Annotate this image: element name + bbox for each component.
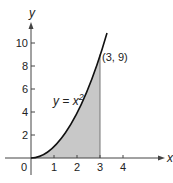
x-axis-arrow-icon	[158, 156, 165, 161]
x-tick-label: 3	[97, 161, 103, 173]
parabola-area-chart: 0 1 2 3 4 2 4 6 8 10 y x (3, 9) y = x2	[0, 0, 173, 183]
y-tick-label: 2	[22, 129, 28, 141]
y-axis-label: y	[28, 6, 36, 20]
equation-base: y = x	[52, 94, 80, 108]
chart-container: 0 1 2 3 4 2 4 6 8 10 y x (3, 9) y = x2	[0, 0, 173, 183]
x-tick-label: 2	[74, 161, 80, 173]
equation-exponent: 2	[78, 92, 84, 102]
y-tick-label: 10	[16, 37, 28, 49]
y-ticks	[31, 43, 35, 135]
origin-label: 0	[21, 161, 27, 173]
y-tick-label: 4	[22, 106, 28, 118]
x-tick-label: 4	[120, 161, 126, 173]
x-axis-label: x	[166, 151, 173, 165]
y-tick-label: 8	[22, 60, 28, 72]
equation-label: y = x2	[52, 92, 84, 108]
y-tick-label: 6	[22, 83, 28, 95]
y-axis-arrow-icon	[29, 22, 34, 29]
x-tick-label: 1	[51, 161, 57, 173]
point-annotation: (3, 9)	[102, 51, 128, 63]
